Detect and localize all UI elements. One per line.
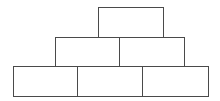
pyramid-box-bottom-2 <box>77 66 143 97</box>
pyramid-box-top-1 <box>98 7 164 38</box>
pyramid-box-bottom-3 <box>142 66 209 97</box>
pyramid-box-middle-1 <box>55 37 120 67</box>
pyramid-box-bottom-1 <box>13 66 78 97</box>
pyramid-box-middle-2 <box>119 37 185 67</box>
